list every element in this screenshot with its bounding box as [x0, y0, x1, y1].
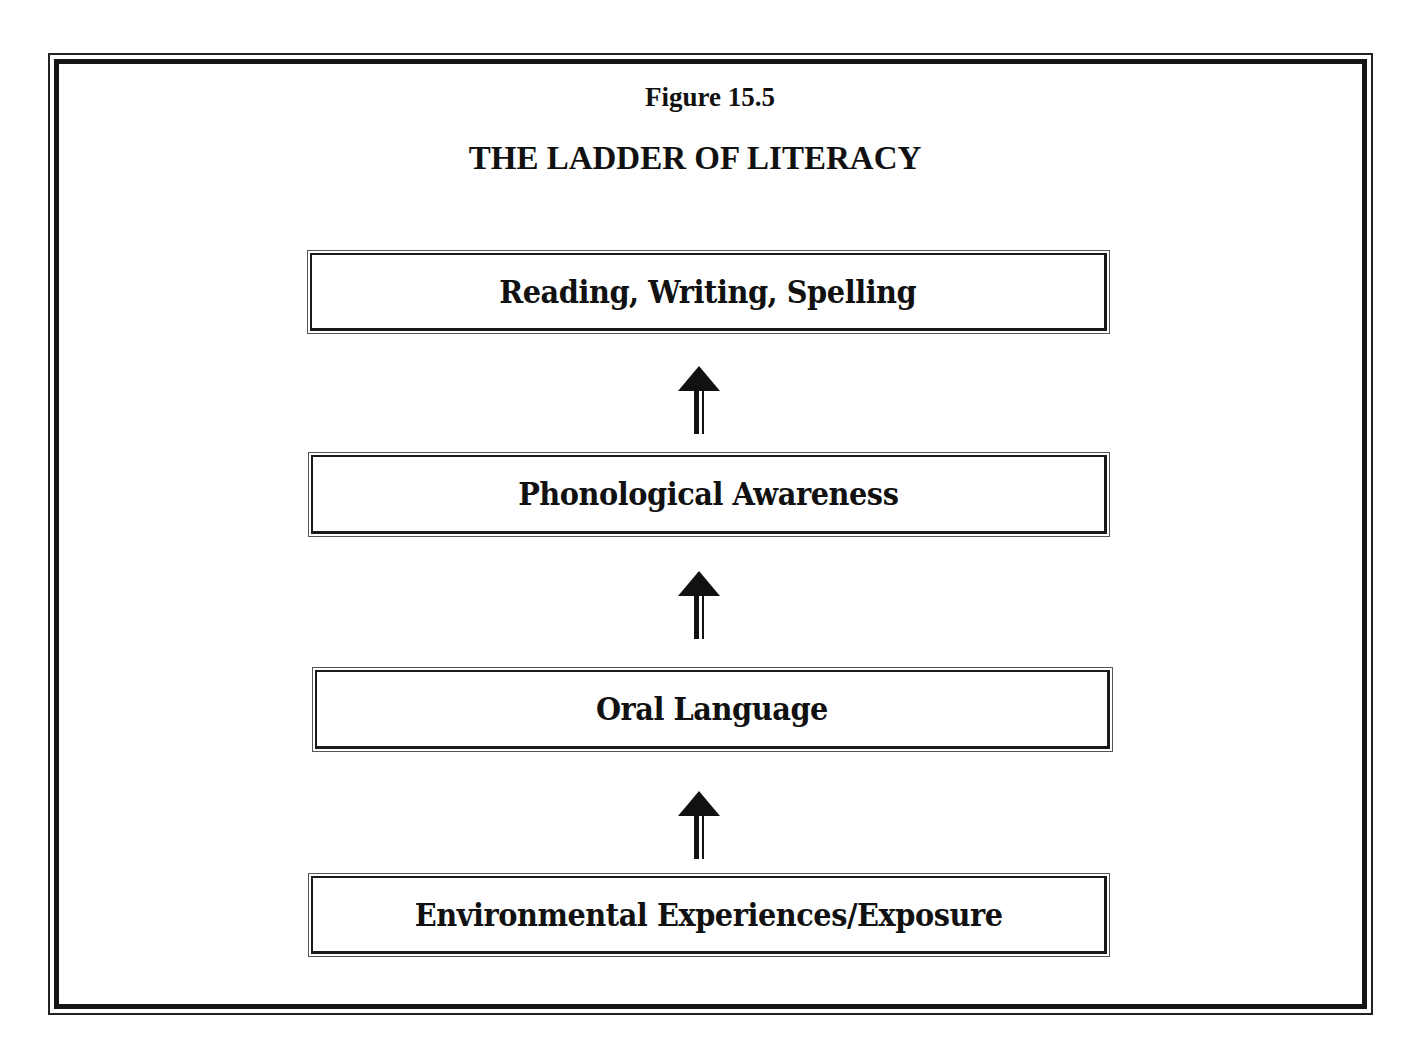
- ladder-rung-phonological-awareness: Phonological Awareness: [308, 452, 1110, 537]
- figure-title: THE LADDER OF LITERACY: [0, 140, 1390, 177]
- rung-label: Reading, Writing, Spelling: [499, 273, 916, 311]
- up-arrow-icon: [674, 571, 724, 641]
- figure-number: Figure 15.5: [0, 82, 1420, 113]
- rung-label: Oral Language: [596, 690, 828, 728]
- up-arrow-icon: [674, 366, 724, 436]
- ladder-rung-oral-language: Oral Language: [312, 667, 1113, 752]
- up-arrow-icon: [674, 791, 724, 861]
- ladder-rung-reading-writing-spelling: Reading, Writing, Spelling: [307, 250, 1110, 334]
- rung-box: Environmental Experiences/Exposure: [311, 876, 1107, 954]
- rung-box: Oral Language: [315, 670, 1110, 749]
- rung-box: Phonological Awareness: [311, 455, 1107, 534]
- rung-label: Phonological Awareness: [518, 475, 898, 513]
- ladder-rung-environmental-experiences: Environmental Experiences/Exposure: [308, 873, 1110, 957]
- rung-label: Environmental Experiences/Exposure: [415, 896, 1003, 934]
- rung-box: Reading, Writing, Spelling: [310, 253, 1107, 331]
